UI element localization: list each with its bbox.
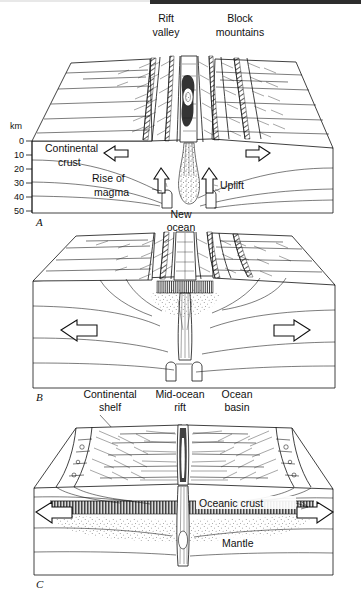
label-rise-of-magma-line2: magma bbox=[94, 186, 129, 198]
scan-edge-light bbox=[0, 0, 150, 2]
label-continental-shelf-line2: shelf bbox=[99, 401, 121, 413]
label-rift-valley-line2: valley bbox=[153, 26, 181, 38]
panel-letter-c: C bbox=[36, 578, 44, 590]
scale-tick-10: 10 bbox=[14, 150, 24, 160]
scale-tick-0: 0 bbox=[19, 136, 24, 146]
label-continental-shelf-line1: Continental bbox=[83, 388, 136, 400]
label-continental-crust-line1: Continental bbox=[45, 142, 98, 154]
scan-edge-dark bbox=[150, 0, 361, 4]
rift-feeder-c bbox=[177, 486, 189, 566]
label-uplift: Uplift bbox=[220, 179, 244, 191]
scale-unit-km: km bbox=[10, 121, 22, 131]
magma-blob-left-b bbox=[166, 362, 176, 381]
label-new-ocean-line2: ocean bbox=[167, 221, 196, 233]
label-continental-crust-line2: crust bbox=[58, 156, 81, 168]
label-ocean-basin-line2: basin bbox=[224, 401, 249, 413]
panel-a-artwork bbox=[32, 56, 333, 213]
label-block-mountains-line2: mountains bbox=[216, 26, 264, 38]
geology-block-diagram-figure: Rift valley Block mountains bbox=[0, 0, 361, 599]
label-mid-ocean-rift-line1: Mid-ocean bbox=[155, 388, 204, 400]
scale-tick-40: 40 bbox=[14, 192, 24, 202]
panel-b-artwork bbox=[33, 232, 335, 388]
label-rise-of-magma-line1: Rise of bbox=[92, 172, 125, 184]
scale-tick-50: 50 bbox=[14, 206, 24, 216]
scale-tick-30: 30 bbox=[14, 178, 24, 188]
label-block-mountains-line1: Block bbox=[227, 12, 253, 24]
label-mantle: Mantle bbox=[222, 537, 254, 549]
label-new-ocean-line1: New bbox=[170, 208, 191, 220]
label-mid-ocean-rift-line2: rift bbox=[174, 401, 186, 413]
panel-letter-a: A bbox=[35, 216, 43, 228]
label-rift-valley-line1: Rift bbox=[158, 12, 174, 24]
scale-tick-20: 20 bbox=[14, 164, 24, 174]
label-oceanic-crust: Oceanic crust bbox=[199, 497, 263, 509]
label-ocean-basin-line1: Ocean bbox=[222, 388, 253, 400]
panel-letter-b: B bbox=[36, 391, 43, 403]
panel-b: New ocean bbox=[33, 208, 335, 403]
